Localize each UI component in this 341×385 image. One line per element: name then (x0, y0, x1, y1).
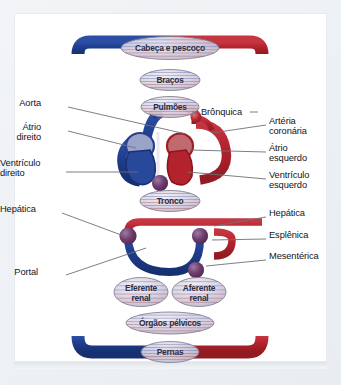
label-mesenterica: Mesentérica (269, 251, 319, 261)
right-ventricle (126, 150, 155, 185)
circulation-diagram-page: Cabeça e pescoçoBraçosPulmõesTroncoEfere… (0, 0, 341, 385)
organ-label: Cabeça e pescoço (135, 43, 205, 53)
organ-label: Pulmões (153, 102, 187, 112)
label-ventriculo-direito: Ventrículo direito (0, 158, 18, 179)
organ-node-orgaos-pelvicos: Órgãos pélvicos (126, 312, 214, 334)
heart-group (78, 80, 226, 191)
label-atrio-direito: Átrio direito (0, 122, 41, 143)
label-arteria-coronaria: Artéria coronária (269, 116, 307, 137)
label-bronquica: Brônquica (201, 107, 242, 117)
left-ventricle (167, 150, 192, 185)
organ-label: Órgãos pélvicos (139, 317, 202, 328)
mesenteric-artery-arc (214, 232, 232, 256)
splenic-capillary-node-red (192, 228, 208, 244)
organ-label: Braços (156, 75, 184, 85)
organ-node-pernas: Pernas (141, 342, 199, 363)
label-esplenica: Esplênica (269, 230, 308, 240)
organ-node-bracos: Braços (140, 70, 200, 91)
liver-capillary-node-red (120, 228, 137, 245)
label-ventriculo-esquerdo: Ventrículo esquerdo (269, 170, 309, 191)
circulation-svg: Cabeça e pescoçoBraçosPulmõesTroncoEfere… (0, 0, 341, 385)
organ-label: Pernas (157, 347, 184, 357)
heart-apex-node-red (152, 175, 168, 191)
label-hepatica-direita: Hepática (269, 208, 305, 218)
label-atrio-esquerdo: Átrio esquerdo (269, 143, 307, 164)
organ-node-tronco: Tronco (140, 191, 200, 212)
label-portal: Portal (0, 267, 38, 277)
organ-label: Tronco (157, 196, 184, 206)
organ-node-aferente-renal: Aferenterenal (172, 278, 226, 307)
organ-node-eferente-renal: Eferenterenal (114, 278, 168, 307)
aorta-arch (196, 124, 226, 180)
organ-node-cabeca-e-pescoco: Cabeça e pescoço (121, 37, 219, 60)
label-aorta: Aorta (0, 98, 41, 108)
organ-node-pulmoes: Pulmões (141, 97, 199, 118)
mesenteric-capillary-node-red (188, 262, 204, 278)
label-hepatica-esquerda: Hepática (0, 204, 22, 214)
